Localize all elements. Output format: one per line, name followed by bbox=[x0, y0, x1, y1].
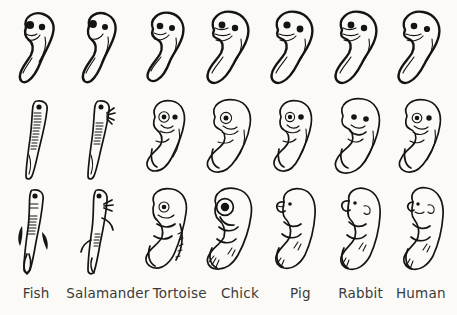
embryo-cell-tortoise-early bbox=[133, 4, 197, 94]
pig-embryo-late-drawing bbox=[264, 184, 320, 276]
embryo-cell-salamander-late bbox=[70, 184, 134, 276]
embryo-cell-rabbit-early bbox=[324, 4, 388, 94]
fish-embryo-middle-drawing bbox=[15, 95, 61, 183]
pig-embryo-early-drawing bbox=[265, 7, 319, 91]
species-label-salamander: Salamander bbox=[66, 285, 149, 301]
species-label-human: Human bbox=[391, 285, 451, 301]
fish-embryo-early-drawing bbox=[12, 7, 64, 91]
embryo-cell-pig-late bbox=[260, 184, 324, 276]
human-embryo-late-drawing bbox=[391, 184, 447, 276]
salamander-embryo-middle-drawing bbox=[78, 95, 124, 183]
species-label-chick: Chick bbox=[210, 285, 270, 301]
embryo-cell-salamander-early bbox=[70, 4, 134, 94]
species-label-pig: Pig bbox=[270, 285, 330, 301]
embryo-cell-pig-early bbox=[260, 4, 324, 94]
embryo-cell-tortoise-middle bbox=[133, 94, 197, 184]
embryo-cell-chick-late bbox=[197, 184, 261, 276]
embryo-cell-salamander-middle bbox=[70, 94, 134, 184]
pig-embryo-middle-drawing bbox=[266, 95, 318, 183]
embryo-cell-rabbit-middle bbox=[324, 94, 388, 184]
rabbit-embryo-late-drawing bbox=[328, 184, 384, 276]
chick-embryo-early-drawing bbox=[201, 7, 255, 91]
embryo-grid bbox=[6, 4, 451, 276]
species-label-fish: Fish bbox=[6, 285, 66, 301]
embryo-cell-pig-middle bbox=[260, 94, 324, 184]
embryo-cell-fish-late bbox=[6, 184, 70, 276]
fish-embryo-late-drawing bbox=[13, 184, 63, 276]
rabbit-embryo-middle-drawing bbox=[328, 95, 384, 183]
species-label-rabbit: Rabbit bbox=[330, 285, 390, 301]
embryo-cell-rabbit-late bbox=[324, 184, 388, 276]
tortoise-embryo-late-drawing bbox=[138, 184, 192, 276]
chick-embryo-late-drawing bbox=[199, 184, 257, 276]
embryo-cell-human-middle bbox=[387, 94, 451, 184]
species-label-tortoise: Tortoise bbox=[150, 285, 210, 301]
chick-embryo-middle-drawing bbox=[200, 95, 256, 183]
human-embryo-middle-drawing bbox=[392, 95, 446, 183]
salamander-embryo-late-drawing bbox=[76, 184, 126, 276]
tortoise-embryo-middle-drawing bbox=[139, 95, 191, 183]
embryo-cell-fish-middle bbox=[6, 94, 70, 184]
embryo-cell-human-late bbox=[387, 184, 451, 276]
human-embryo-early-drawing bbox=[392, 7, 446, 91]
tortoise-embryo-early-drawing bbox=[139, 7, 191, 91]
embryo-comparison-figure: Fish Salamander Tortoise Chick Pig Rabbi… bbox=[0, 0, 457, 315]
embryo-cell-fish-early bbox=[6, 4, 70, 94]
embryo-cell-chick-middle bbox=[197, 94, 261, 184]
embryo-cell-chick-early bbox=[197, 4, 261, 94]
salamander-embryo-early-drawing bbox=[76, 7, 126, 91]
species-label-row: Fish Salamander Tortoise Chick Pig Rabbi… bbox=[6, 276, 451, 310]
rabbit-embryo-early-drawing bbox=[329, 7, 383, 91]
embryo-cell-human-early bbox=[387, 4, 451, 94]
embryo-cell-tortoise-late bbox=[133, 184, 197, 276]
